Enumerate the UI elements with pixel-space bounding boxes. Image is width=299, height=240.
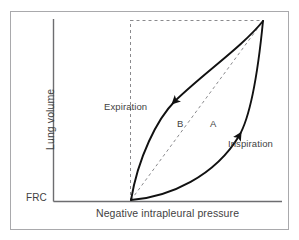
expiration-curve-tail <box>131 101 175 200</box>
curve-label-a: A <box>210 118 216 129</box>
expiration-curve <box>175 21 263 101</box>
reference-diagonal-line <box>131 21 263 200</box>
figure-root: Lung volume Negative intrapleural pressu… <box>0 0 299 240</box>
y-axis-tick-label-frc: FRC <box>26 192 47 203</box>
inspiration-curve-tail <box>239 21 263 136</box>
y-axis-title: Lung volume <box>44 89 56 150</box>
curve-label-b: B <box>177 118 183 129</box>
expiration-annotation-label: Expiration <box>104 101 147 112</box>
x-axis-title: Negative intrapleural pressure <box>96 207 239 219</box>
inspiration-annotation-label: Inspiration <box>228 138 273 149</box>
